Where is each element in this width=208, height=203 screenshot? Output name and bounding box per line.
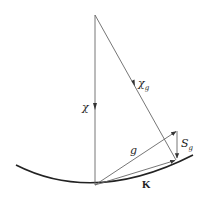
chi-g-label: χg: [137, 77, 150, 92]
s-g-label: Sg: [181, 137, 194, 152]
k-label: K: [142, 178, 151, 190]
chi-arrowhead: [93, 103, 97, 110]
chi-label: χ: [81, 101, 90, 114]
k-vector: [95, 161, 175, 186]
chi-g-vector: [95, 15, 176, 160]
ewald-diagram: χ χg g Sg K: [0, 0, 208, 203]
g-label: g: [130, 144, 137, 157]
